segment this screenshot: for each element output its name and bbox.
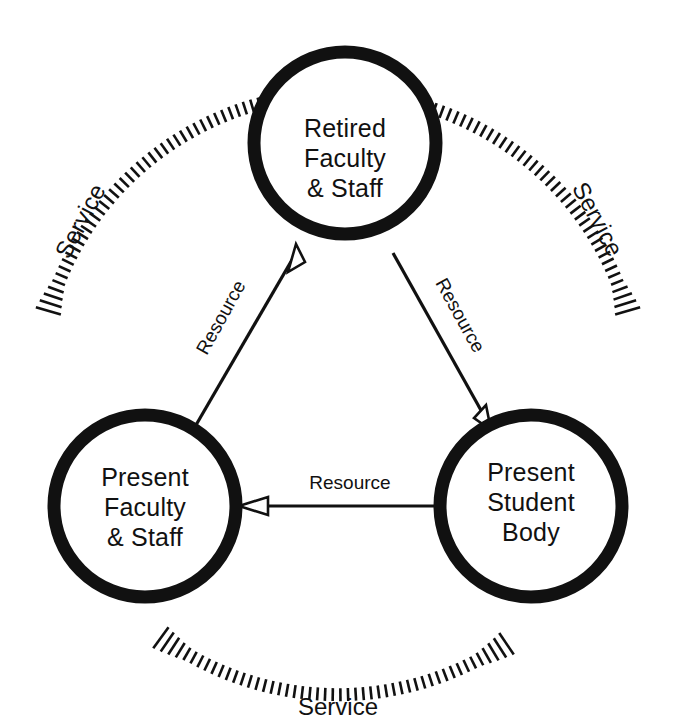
node-retired-faculty-staff-line3: & Staff [307,174,383,202]
node-present-student-body-line3: Body [502,518,560,546]
triad-diagram: Retired Faculty & Staff Present Faculty … [0,0,673,728]
node-present-student-body[interactable]: Present Student Body [440,415,622,597]
resource-arrow-bottom[interactable] [239,497,439,515]
service-label-bottom-group: Service [298,693,378,720]
service-arc-bottom-hatching [153,627,513,701]
resource-arrow-left-head [288,244,305,272]
node-retired-faculty-staff[interactable]: Retired Faculty & Staff [254,52,436,234]
node-present-faculty-staff[interactable]: Present Faculty & Staff [54,415,236,597]
node-present-student-body-line1: Present [487,458,575,486]
resource-label-bottom-group: Resource [309,472,390,493]
node-present-faculty-staff-line1: Present [101,463,189,491]
node-retired-faculty-staff-line1: Retired [304,114,386,142]
service-arc-bottom [153,627,513,701]
node-retired-faculty-staff-line2: Faculty [304,144,386,172]
node-present-faculty-staff-line3: & Staff [107,523,183,551]
service-label-bottom: Service [298,693,378,720]
resource-label-right-group: Resource [431,275,489,356]
resource-label-right: Resource [431,275,489,356]
node-present-faculty-staff-line2: Faculty [104,493,186,521]
resource-arrow-bottom-head [239,497,268,515]
node-present-student-body-line2: Student [487,488,575,516]
diagram-canvas: Retired Faculty & Staff Present Faculty … [0,0,673,728]
resource-label-bottom: Resource [309,472,390,493]
